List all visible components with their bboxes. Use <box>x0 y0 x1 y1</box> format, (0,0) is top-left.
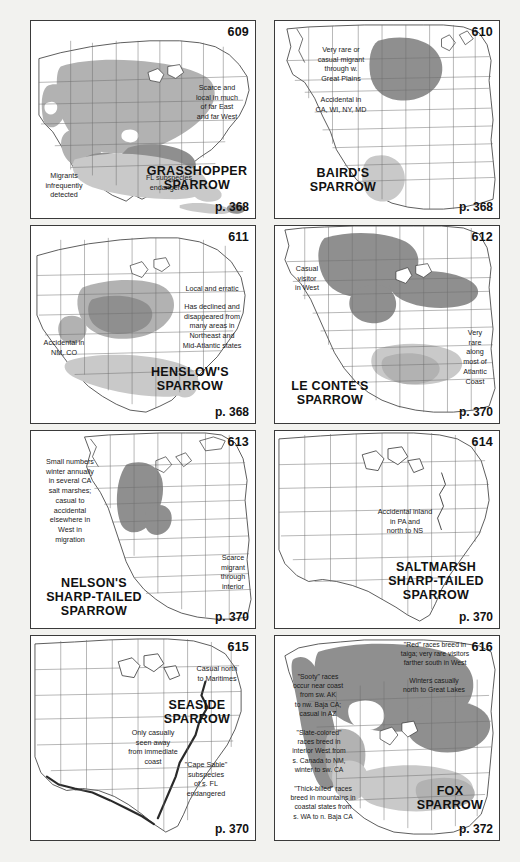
species-name: NELSON'S SHARP-TAILED SPARROW <box>33 576 155 618</box>
map-note: "Red" races breed in taiga; very rare vi… <box>393 640 477 668</box>
map-note: Winters casually north to Great Lakes <box>393 676 475 694</box>
range-map-panel-611[interactable]: 611 HENSLOW'S SPARROW p. 368 Local and e… <box>30 225 256 424</box>
page-reference: p. 370 <box>459 405 493 419</box>
panel-number: 610 <box>472 25 493 39</box>
map-note: Small numbers winter annually in several… <box>33 457 107 544</box>
range-map-page: 609 GRASSHOPPER SPARROW p. 368 Scarce an… <box>0 0 520 862</box>
map-note: Scarce and local in much of far East and… <box>182 83 252 122</box>
map-note: Has declined and disappeared from many a… <box>172 302 252 351</box>
page-reference: p. 370 <box>215 610 249 624</box>
panel-number: 614 <box>472 435 493 449</box>
page-reference: p. 370 <box>215 822 249 836</box>
species-name: FOX SPARROW <box>411 784 489 812</box>
page-reference: p. 368 <box>215 405 249 419</box>
map-note: "Slate-colored" races breed in interior … <box>277 728 361 774</box>
page-reference: p. 372 <box>459 822 493 836</box>
range-map-panel-609[interactable]: 609 GRASSHOPPER SPARROW p. 368 Scarce an… <box>30 20 256 219</box>
map-note: Scarce migrant through interior <box>213 553 253 592</box>
map-note: "Thick-billed" races breed in mountains … <box>275 784 371 821</box>
species-name: SALTMARSH SHARP-TAILED SPARROW <box>381 560 491 602</box>
species-name: BAIRD'S SPARROW <box>301 166 385 194</box>
range-map-panel-610[interactable]: 610 BAIRD'S SPARROW p. 368 Very rare or … <box>274 20 500 219</box>
map-note: Very rare along most of Atlantic Coast <box>453 328 497 386</box>
species-name: LE CONTE'S SPARROW <box>279 379 381 407</box>
map-note: Casual visitor in West <box>281 264 333 293</box>
range-map-panel-615[interactable]: 615 SEASIDE SPARROW p. 370 Casual north … <box>30 635 256 841</box>
species-name: HENSLOW'S SPARROW <box>135 365 245 393</box>
range-map-panel-612[interactable]: 612 LE CONTE'S SPARROW p. 370 Casual vis… <box>274 225 500 424</box>
map-note: FL subspecies endangered <box>135 173 203 192</box>
panel-number: 611 <box>228 230 249 244</box>
page-reference: p. 368 <box>459 200 493 214</box>
range-map-panel-614[interactable]: 614 SALTMARSH SHARP-TAILED SPARROW p. 37… <box>274 430 500 629</box>
page-reference: p. 368 <box>215 200 249 214</box>
map-note: Local and erratic <box>172 284 252 294</box>
range-map-grid: 609 GRASSHOPPER SPARROW p. 368 Scarce an… <box>30 20 500 842</box>
range-map-panel-616[interactable]: 616 FOX SPARROW p. 372 "Red" races breed… <box>274 635 500 841</box>
species-name: SEASIDE SPARROW <box>147 698 247 726</box>
range-map-panel-613[interactable]: 613 NELSON'S SHARP-TAILED SPARROW p. 370… <box>30 430 256 629</box>
page-reference: p. 370 <box>459 610 493 624</box>
map-note: "Sooty" races occur near coast from sw. … <box>279 672 357 718</box>
map-note: "Cape Sable" subspecies of s. FL endange… <box>175 760 237 799</box>
panel-number: 612 <box>472 230 493 244</box>
map-note: Accidental inland in PA and north to NS <box>367 507 443 536</box>
map-note: Very rare or casual migrant through w. G… <box>301 45 381 84</box>
map-note: Accidental in CA, WI, NY, MD <box>301 95 381 114</box>
map-note: Accidental in NM, CO <box>33 338 95 357</box>
panel-number: 615 <box>228 640 249 654</box>
panel-number: 613 <box>228 435 249 449</box>
map-note: Casual north to Maritimes <box>181 664 253 683</box>
panel-number: 609 <box>228 25 249 39</box>
map-note: Migrants infrequently detected <box>33 171 95 200</box>
